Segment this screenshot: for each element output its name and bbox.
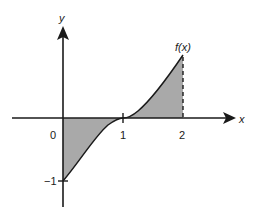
x-tick-label-1: 1	[120, 129, 126, 141]
area-under-curve-diagram: y x f(x) 0 1 2 −1	[0, 0, 254, 217]
shaded-region-negative	[63, 118, 123, 181]
y-axis-label: y	[58, 12, 66, 24]
x-tick-label-0: 0	[50, 129, 56, 141]
x-axis-label: x	[238, 113, 245, 125]
shaded-region-positive	[123, 55, 183, 118]
y-tick-label-minus-1: −1	[44, 175, 57, 187]
x-tick-label-2: 2	[179, 129, 185, 141]
function-label: f(x)	[175, 41, 191, 53]
